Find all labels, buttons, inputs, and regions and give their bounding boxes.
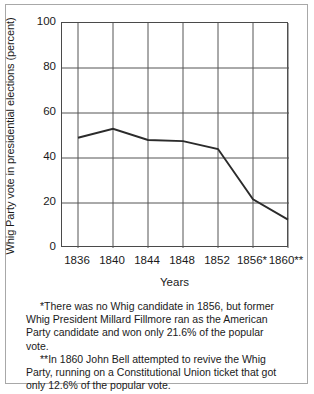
x-tick-label: 1836 (64, 255, 90, 267)
y-tick-label: 0 (26, 241, 56, 253)
x-tick-label: 1844 (134, 255, 160, 267)
y-axis-title-container: Whig Party vote in presidential election… (8, 20, 24, 250)
y-tick-label: 80 (26, 61, 56, 73)
x-axis-tick-labels: 1836 1840 1844 1848 1852 1856* 1860** (61, 255, 288, 271)
x-tick-label: 1840 (99, 255, 125, 267)
footnote-1856: *There was no Whig candidate in 1856, bu… (26, 300, 288, 353)
x-axis-title: Years (61, 276, 288, 288)
y-tick-label: 100 (26, 16, 56, 28)
x-tick-label: 1848 (169, 255, 195, 267)
y-axis-tick-labels: 100 80 60 40 20 0 (26, 0, 56, 260)
chart-figure: Whig Party vote in presidential election… (0, 0, 314, 394)
y-tick-label: 20 (26, 196, 56, 208)
footnotes: *There was no Whig candidate in 1856, bu… (26, 300, 288, 392)
series-whig-vote (78, 129, 288, 220)
x-tick-label: 1856* (237, 255, 267, 267)
plot-area (61, 22, 288, 247)
y-tick-label: 60 (26, 106, 56, 118)
y-tick-label: 40 (26, 151, 56, 163)
footnote-1860: **In 1860 John Bell attempted to revive … (26, 353, 288, 393)
x-tick-label: 1860** (269, 255, 304, 267)
y-axis-title: Whig Party vote in presidential election… (4, 0, 16, 306)
x-tick-label: 1852 (204, 255, 230, 267)
data-line (62, 23, 289, 248)
